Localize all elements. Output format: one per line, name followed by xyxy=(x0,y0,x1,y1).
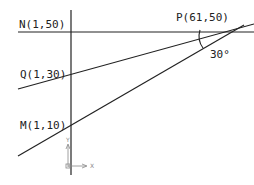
line-mp xyxy=(18,25,244,156)
angle-label: 30° xyxy=(210,48,230,61)
label-q: Q(1,30) xyxy=(20,68,66,81)
ucs-icon xyxy=(66,144,87,168)
drawing-canvas: N(1,50) Q(1,30) M(1,10) P(61,50) 30° X Y xyxy=(0,0,254,185)
label-n: N(1,50) xyxy=(19,18,65,31)
label-p: P(61,50) xyxy=(176,11,229,24)
ucs-x-label: X xyxy=(90,162,94,169)
ucs-y-label: Y xyxy=(65,136,70,143)
label-m: M(1,10) xyxy=(20,119,66,132)
